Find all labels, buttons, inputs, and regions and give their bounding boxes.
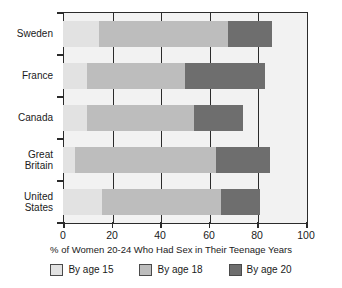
bar-segment-by-age-15 — [63, 105, 87, 131]
y-axis-label-sweden: Sweden — [17, 28, 53, 39]
bar-row — [63, 189, 306, 215]
x-axis-title: % of Women 20-24 Who Had Sex in Their Te… — [0, 244, 342, 256]
x-axis-tick-label: 40 — [154, 229, 166, 241]
bar-row — [63, 21, 306, 47]
bar-segment-by-age-18 — [63, 147, 216, 173]
x-axis-tick — [257, 222, 259, 228]
x-axis-tick-label: 60 — [203, 229, 215, 241]
x-axis-tick-label: 0 — [60, 229, 66, 241]
y-axis-label-canada: Canada — [18, 112, 53, 123]
legend-label: By age 18 — [157, 264, 202, 276]
legend-item-by-age-20: By age 20 — [229, 264, 292, 276]
x-axis-tick — [63, 222, 65, 228]
bars-layer — [63, 12, 306, 222]
bar-segment-by-age-15 — [63, 21, 99, 47]
legend-swatch-icon — [139, 264, 152, 276]
legend-item-by-age-18: By age 18 — [139, 264, 202, 276]
y-axis-label-great-britain: Great Britain — [25, 149, 53, 171]
x-axis-tick — [112, 222, 114, 228]
stacked-bar-chart: Sweden France Canada Great Britain Unite… — [0, 0, 342, 288]
bar-row — [63, 147, 306, 173]
bar-row — [63, 105, 306, 131]
legend-item-by-age-15: By age 15 — [50, 264, 113, 276]
chart-legend: By age 15 By age 18 By age 20 — [0, 264, 342, 276]
y-axis-label-france: France — [22, 70, 53, 81]
x-axis-tick-label: 80 — [251, 229, 263, 241]
y-axis-labels: Sweden France Canada Great Britain Unite… — [0, 12, 58, 222]
legend-label: By age 15 — [68, 264, 113, 276]
bar-segment-by-age-15 — [63, 63, 87, 89]
x-axis-tick-label: 20 — [106, 229, 118, 241]
y-axis-label-united-states: United States — [24, 191, 53, 213]
x-axis-tick-label: 100 — [297, 229, 315, 241]
x-axis-tick — [160, 222, 162, 228]
legend-swatch-icon — [229, 264, 242, 276]
bar-row — [63, 63, 306, 89]
bar-segment-by-age-15 — [63, 147, 75, 173]
x-axis-tick — [306, 222, 308, 228]
legend-swatch-icon — [50, 264, 63, 276]
legend-label: By age 20 — [247, 264, 292, 276]
x-axis-tick — [209, 222, 211, 228]
bar-segment-by-age-15 — [63, 189, 102, 215]
